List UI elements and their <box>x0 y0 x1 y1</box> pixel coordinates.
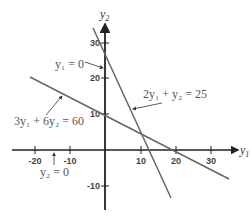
y2-zero-label: y₂ = 0 <box>40 165 69 179</box>
y1-axis-label: y1 <box>239 143 249 159</box>
x-tick-label: 30 <box>206 156 216 166</box>
x-tick-label: 20 <box>171 156 181 166</box>
y2-axis-label: y2 <box>99 7 109 23</box>
linear-programming-diagram: -20 -10 10 20 30 30 20 10 -10 y2 y1 y₁ =… <box>0 0 252 218</box>
x-ticks: -20 -10 10 20 30 <box>28 146 216 166</box>
y-tick-label: -10 <box>87 181 100 191</box>
x-tick-label: 10 <box>136 156 146 166</box>
line-label-2y1-y2-25-pointer <box>133 103 162 109</box>
line-label-3y1-6y2-60: 3y₁ + 6y₂ = 60 <box>14 114 84 128</box>
y-tick-label: 20 <box>90 73 100 83</box>
line-label-2y1-y2-25: 2y₁ + y₂ = 25 <box>143 87 207 101</box>
line-label-3y1-6y2-60-pointer <box>46 96 62 115</box>
y1-zero-label: y₁ = 0 <box>55 57 84 71</box>
y1-zero-pointer <box>85 62 103 68</box>
